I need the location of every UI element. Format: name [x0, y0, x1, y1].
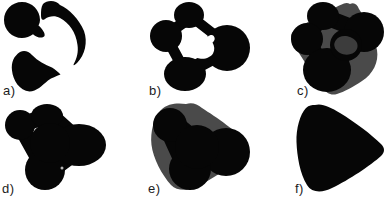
- panel-d-lobes: [5, 104, 106, 190]
- panel-b-lobe-top: [174, 2, 204, 28]
- shapes-canvas: [0, 0, 388, 200]
- panel-d-center-fill: [30, 123, 70, 163]
- panel-b-lobe-bottom: [164, 57, 206, 91]
- panel-b-central-hole: [189, 35, 215, 59]
- panel-b-label: b): [149, 84, 162, 97]
- panel-a-particle-bottom: [12, 51, 61, 92]
- panel-a-particle-top-crescent: [41, 1, 86, 65]
- panel-e-center-fill: [175, 125, 219, 169]
- panel-d-label: d): [2, 182, 15, 195]
- panel-d-lobe-left: [5, 110, 35, 140]
- panel-d-tiny-pore-dot: [61, 167, 64, 170]
- panel-e-label: e): [148, 182, 161, 195]
- panel-a-label: a): [3, 84, 16, 97]
- panel-c-label: c): [297, 84, 309, 97]
- panel-b-lobe-left: [150, 20, 182, 52]
- panel-f-label: f): [295, 182, 304, 195]
- panel-a-particle-top-left: [4, 2, 45, 38]
- panel-a-shapes: [4, 1, 86, 91]
- figure-six-panel-shape-evolution: a) b) c) d) e) f): [0, 0, 388, 200]
- panel-f-final-rounded-triangle: [296, 104, 384, 191]
